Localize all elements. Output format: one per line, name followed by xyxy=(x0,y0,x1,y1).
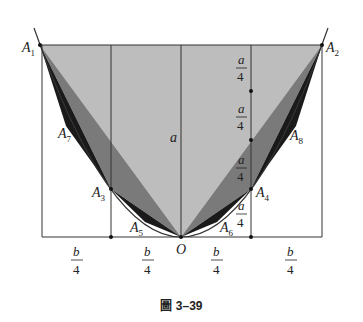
svg-text:a: a xyxy=(238,101,245,116)
svg-text:4: 4 xyxy=(237,169,244,184)
svg-text:a: a xyxy=(238,152,245,167)
svg-text:b: b xyxy=(213,244,220,259)
svg-text:a: a xyxy=(238,52,245,67)
label-a1: A1 xyxy=(21,40,35,58)
svg-text:b: b xyxy=(73,244,80,259)
figure-caption: 圖 3–39 xyxy=(0,296,363,313)
svg-text:4: 4 xyxy=(287,262,294,277)
label-a5: A5 xyxy=(129,220,144,238)
fraction-a4-4: a 4 xyxy=(236,198,247,230)
label-a4: A4 xyxy=(255,185,270,203)
label-o: O xyxy=(176,242,186,257)
fraction-b4-2: b 4 xyxy=(142,244,154,277)
label-a3: A3 xyxy=(91,185,106,203)
label-a-height: a xyxy=(170,130,177,145)
svg-text:4: 4 xyxy=(73,262,80,277)
svg-text:4: 4 xyxy=(213,262,220,277)
label-a2: A2 xyxy=(325,40,339,58)
parabola-segment-diagram: A1 A2 A7 A8 A3 A4 A5 A6 O a a 4 a 4 a 4 … xyxy=(0,0,363,322)
svg-text:b: b xyxy=(287,244,294,259)
fraction-b4-1: b 4 xyxy=(71,244,83,277)
svg-text:4: 4 xyxy=(144,262,151,277)
fraction-b4-3: b 4 xyxy=(211,244,223,277)
fraction-b4-4: b 4 xyxy=(285,244,297,277)
svg-text:a: a xyxy=(238,198,245,213)
svg-text:4: 4 xyxy=(237,215,244,230)
label-a6: A6 xyxy=(219,220,234,238)
label-a8: A8 xyxy=(289,128,304,146)
svg-text:4: 4 xyxy=(237,69,244,84)
svg-text:4: 4 xyxy=(237,118,244,133)
svg-text:b: b xyxy=(144,244,151,259)
